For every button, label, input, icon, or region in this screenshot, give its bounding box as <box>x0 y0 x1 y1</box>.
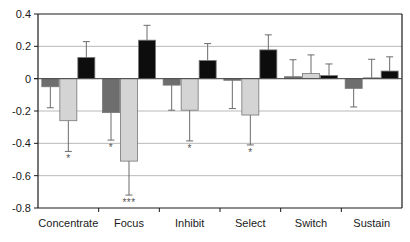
chart-svg: 0.40.20-0.2-0.4-0.6-0.8*Concentrate****F… <box>0 0 410 242</box>
bar-switch-series-2-light-gray <box>303 73 320 78</box>
bar-select-series-3-black <box>260 50 277 79</box>
y-tick-label: -0.2 <box>12 105 31 117</box>
bar-sustain-series-1-dark-gray <box>345 79 362 89</box>
bar-select-series-2-light-gray <box>242 79 259 115</box>
bar-concentrate-series-1-dark-gray <box>42 79 59 87</box>
y-tick-label: 0.2 <box>16 40 31 52</box>
x-tick-label-switch: Switch <box>295 217 327 229</box>
y-tick-label: -0.4 <box>12 137 31 149</box>
bar-chart: 0.40.20-0.2-0.4-0.6-0.8*Concentrate****F… <box>0 0 410 242</box>
bar-sustain-series-3-black <box>381 71 398 79</box>
x-tick-label-focus: Focus <box>114 217 144 229</box>
x-tick-label-select: Select <box>235 217 266 229</box>
bar-focus-series-1-dark-gray <box>103 79 120 113</box>
y-tick-label: 0 <box>25 73 31 85</box>
bar-inhibit-series-3-black <box>199 61 216 79</box>
significance-marker: * <box>66 153 70 164</box>
x-tick-label-inhibit: Inhibit <box>175 217 204 229</box>
significance-marker: * <box>248 147 252 158</box>
bar-focus-series-3-black <box>139 40 156 78</box>
y-tick-label: -0.6 <box>12 170 31 182</box>
bar-concentrate-series-3-black <box>78 57 95 78</box>
bar-inhibit-series-2-light-gray <box>181 79 198 111</box>
bar-focus-series-2-light-gray <box>121 79 138 161</box>
bar-concentrate-series-2-light-gray <box>60 79 77 121</box>
significance-marker: * <box>187 143 191 154</box>
y-tick-label: -0.8 <box>12 202 31 214</box>
y-tick-label: 0.4 <box>16 8 31 20</box>
significance-marker: * <box>109 142 113 153</box>
significance-marker: *** <box>122 197 135 208</box>
x-tick-label-sustain: Sustain <box>353 217 390 229</box>
x-tick-label-concentrate: Concentrate <box>38 217 98 229</box>
bar-inhibit-series-1-dark-gray <box>163 79 180 85</box>
